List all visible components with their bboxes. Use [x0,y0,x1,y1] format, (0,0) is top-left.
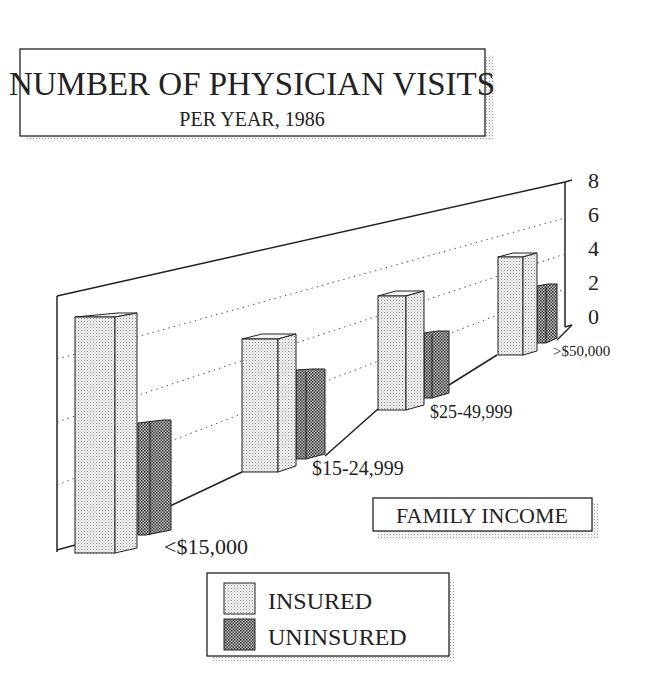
bar-insured-lt15000 [75,313,137,553]
bar-uninsured-25-49999 [424,331,449,398]
legend-label-uninsured: UNINSURED [268,624,407,650]
chart-title: NUMBER OF PHYSICIAN VISITS [9,66,495,102]
category-label-lt15000: <$15,000 [164,534,248,559]
bar-insured-25-49999 [378,291,424,410]
category-label-25-49999: $25-49,999 [430,402,513,422]
y-tick-0: 0 [588,304,599,329]
bar-insured-gt50000 [498,253,537,355]
y-tick-4: 4 [588,236,599,261]
y-tick-6: 6 [588,202,599,227]
bar-uninsured-gt50000 [537,284,557,343]
bar-uninsured-lt15000 [138,420,171,535]
title-box: NUMBER OF PHYSICIAN VISITS PER YEAR, 198… [9,49,495,140]
chart-canvas: NUMBER OF PHYSICIAN VISITS PER YEAR, 198… [0,0,653,689]
x-axis-title-box: FAMILY INCOME [373,498,599,539]
category-label-15-24999: $15-24,999 [312,457,404,479]
legend-label-insured: INSURED [268,588,372,614]
bar-uninsured-15-24999 [296,369,325,459]
legend: INSURED UNINSURED [207,573,454,662]
bar-insured-15-24999 [242,334,296,472]
legend-item-uninsured: UNINSURED [224,619,407,650]
legend-swatch-uninsured [224,619,255,650]
legend-swatch-insured [224,583,255,614]
y-tick-8: 8 [588,168,599,193]
legend-item-insured: INSURED [224,583,372,614]
y-tick-2: 2 [588,270,599,295]
chart-subtitle: PER YEAR, 1986 [179,108,324,130]
category-label-gt50000: >$50,000 [553,343,610,359]
x-axis-title: FAMILY INCOME [396,503,568,528]
y-axis: 8 6 4 2 0 [588,168,599,329]
